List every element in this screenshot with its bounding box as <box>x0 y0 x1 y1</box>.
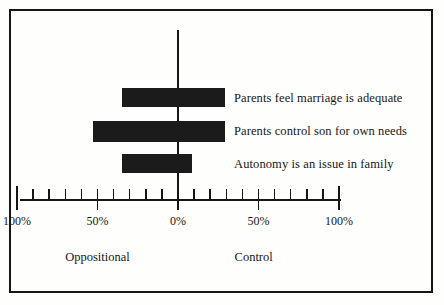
direction-caption-oppositional: Oppositional <box>65 250 130 265</box>
x-axis-major-tick <box>97 189 99 210</box>
x-axis-minor-tick <box>209 189 211 201</box>
x-axis-major-tick <box>258 189 260 210</box>
x-axis-tick-label: 100% <box>3 214 31 228</box>
x-axis-tick-label: 0% <box>170 214 186 228</box>
x-axis-end-tick <box>338 186 340 210</box>
x-axis-minor-tick <box>81 189 83 201</box>
x-axis-minor-tick <box>274 189 276 201</box>
x-axis-major-tick <box>177 189 179 210</box>
x-axis-minor-tick <box>306 189 308 201</box>
x-axis-minor-tick <box>48 189 50 201</box>
bar-autonomy-is-an-issue-in-family <box>122 154 193 173</box>
bar-parents-control-son-for-own-needs <box>93 121 225 142</box>
x-axis-minor-tick <box>145 189 147 201</box>
chart-page: Parents feel marriage is adequate Parent… <box>0 0 444 305</box>
x-axis-minor-tick <box>242 189 244 201</box>
x-axis-minor-tick <box>161 189 163 201</box>
x-axis-minor-tick <box>322 189 324 201</box>
x-axis-tick-label: 50% <box>248 214 270 228</box>
bar-parents-feel-marriage-is-adequate <box>122 88 225 107</box>
x-axis-minor-tick <box>65 189 67 201</box>
chart-plot-area: Parents feel marriage is adequate Parent… <box>0 0 444 305</box>
series-label-3: Autonomy is an issue in family <box>234 157 394 171</box>
x-axis-tick-label: 100% <box>325 214 353 228</box>
x-axis-minor-tick <box>290 189 292 201</box>
zero-axis-line <box>177 30 179 206</box>
series-label-1: Parents feel marriage is adequate <box>234 91 403 105</box>
x-axis-tick-label: 50% <box>87 214 109 228</box>
x-axis-minor-tick <box>129 189 131 201</box>
series-label-2: Parents control son for own needs <box>234 124 407 138</box>
x-axis-end-tick <box>16 186 18 210</box>
direction-caption-control: Control <box>235 250 273 265</box>
x-axis-line <box>20 199 341 201</box>
x-axis-minor-tick <box>226 189 228 201</box>
x-axis-minor-tick <box>113 189 115 201</box>
x-axis-minor-tick <box>32 189 34 201</box>
x-axis-minor-tick <box>193 189 195 201</box>
